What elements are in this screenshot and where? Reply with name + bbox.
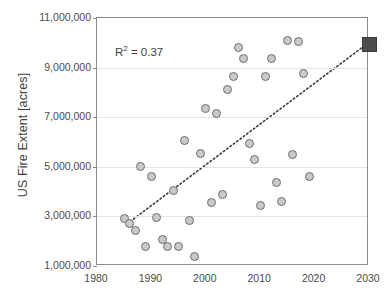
y-axis-tick-label: 9,000,000 xyxy=(19,61,91,73)
y-axis-tick-label: 3,000,000 xyxy=(19,209,91,221)
y-axis-tick-label: 11,000,000 xyxy=(19,11,91,23)
y-axis-tick-labels: 1,000,0003,000,0005,000,0007,000,0009,00… xyxy=(16,0,91,305)
gridline xyxy=(97,68,367,69)
plot-area: R2 = 0.37 xyxy=(96,17,368,265)
x-axis-tick-label: 2010 xyxy=(248,272,271,284)
x-axis-tick-label: 2030 xyxy=(356,272,379,284)
data-point xyxy=(283,36,292,45)
data-point xyxy=(245,139,254,148)
gridline xyxy=(97,117,367,118)
x-axis-tick-label: 2020 xyxy=(302,272,325,284)
data-point xyxy=(229,72,238,81)
data-point xyxy=(174,242,183,251)
x-axis-tick-label: 1990 xyxy=(139,272,162,284)
data-point xyxy=(294,37,303,46)
data-point xyxy=(256,201,265,210)
data-point xyxy=(190,252,199,261)
scatter-chart: US Fire Extent [acres] 1,000,0003,000,00… xyxy=(0,0,390,305)
y-axis-tick-label: 1,000,000 xyxy=(19,259,91,271)
data-point xyxy=(180,136,189,145)
y-axis-tickmark xyxy=(93,167,97,168)
y-axis-tickmark xyxy=(93,117,97,118)
r-squared-annotation: R2 = 0.37 xyxy=(115,44,163,58)
data-point xyxy=(261,72,270,81)
y-axis-tick-label: 7,000,000 xyxy=(19,110,91,122)
data-point xyxy=(267,54,276,63)
y-axis-tickmark xyxy=(93,18,97,19)
data-point xyxy=(131,226,140,235)
data-point xyxy=(207,198,216,207)
y-axis-tickmark xyxy=(93,216,97,217)
x-axis-tick-label: 2000 xyxy=(193,272,216,284)
y-axis-tick-label: 5,000,000 xyxy=(19,160,91,172)
data-point xyxy=(169,186,178,195)
y-axis-tickmark xyxy=(93,68,97,69)
y-axis-tickmark xyxy=(93,266,97,267)
projection-marker xyxy=(362,37,377,52)
gridline xyxy=(97,216,367,217)
data-point xyxy=(218,190,227,199)
data-point xyxy=(185,216,194,225)
data-point xyxy=(305,172,314,181)
trendline xyxy=(127,44,367,224)
x-axis-tick-label: 1980 xyxy=(84,272,107,284)
data-point xyxy=(196,149,205,158)
data-point xyxy=(163,242,172,251)
